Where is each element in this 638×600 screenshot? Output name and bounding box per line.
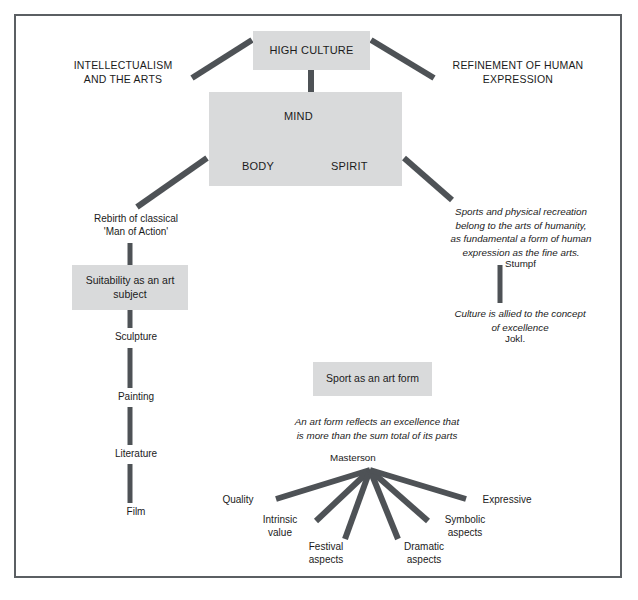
node-suitability-label: Suitability as an art subject [72, 274, 188, 300]
node-film: Film [108, 505, 164, 518]
clipped-header-text [196, 0, 626, 8]
node-body-label: BODY [242, 160, 274, 172]
quote-jokl-text: Culture is allied to the concept of exce… [431, 307, 609, 334]
quote-jokl-attribution: Jokl. [505, 333, 525, 344]
node-symbolic-aspects: Symbolic aspects [432, 513, 498, 539]
node-expressive: Expressive [470, 493, 544, 506]
clipped-footer-text [60, 583, 390, 595]
diagram-canvas: HIGH CULTURE Suitability as an art subje… [0, 0, 638, 600]
node-quality: Quality [207, 493, 269, 506]
node-intellectualism-and-the-arts: INTELLECTUALISM AND THE ARTS [58, 59, 188, 86]
node-sport-as-art-form-label: Sport as an art form [320, 372, 425, 385]
quote-stumpf-text: Sports and physical recreation belong to… [430, 205, 612, 259]
node-intrinsic-value: Intrinsic value [249, 513, 311, 539]
node-mind-label: MIND [284, 110, 313, 122]
node-high-culture[interactable]: HIGH CULTURE [253, 31, 370, 70]
node-spirit-label: SPIRIT [331, 160, 368, 172]
quote-stumpf-attribution: Stumpf [505, 258, 536, 269]
node-dramatic-aspects: Dramatic aspects [391, 540, 457, 566]
node-suitability-as-art-subject[interactable]: Suitability as an art subject [72, 265, 188, 310]
quote-masterson-attribution: Masterson [330, 452, 376, 463]
node-sport-as-an-art-form[interactable]: Sport as an art form [313, 362, 432, 396]
node-rebirth-of-classical-man-of-action: Rebirth of classical 'Man of Action' [78, 212, 194, 238]
quote-masterson-text: An art form reflects an excellence that … [287, 415, 467, 442]
node-sculpture: Sculpture [100, 330, 172, 343]
node-painting: Painting [100, 390, 172, 403]
node-festival-aspects: Festival aspects [295, 540, 357, 566]
node-mind-body-spirit[interactable] [209, 92, 402, 186]
node-literature: Literature [98, 447, 174, 460]
node-refinement-of-human-expression: REFINEMENT OF HUMAN EXPRESSION [443, 59, 593, 86]
node-high-culture-label: HIGH CULTURE [263, 44, 359, 58]
